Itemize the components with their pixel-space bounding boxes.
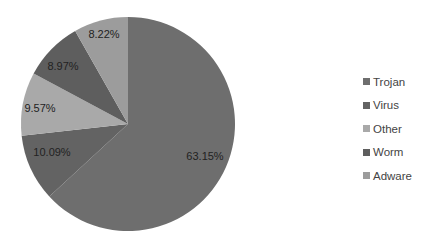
legend-swatch <box>363 149 370 156</box>
legend-item-adware: Adware <box>363 164 412 188</box>
data-label: 63.15% <box>186 150 224 162</box>
legend-swatch <box>363 172 370 179</box>
legend-swatch <box>363 78 370 85</box>
legend-item-virus: Virus <box>363 94 412 118</box>
legend: Trojan Virus Other Worm Adware <box>363 70 412 188</box>
data-label: 8.97% <box>47 60 78 72</box>
data-label: 9.57% <box>24 102 55 114</box>
legend-item-trojan: Trojan <box>363 70 412 94</box>
data-label: 8.22% <box>88 28 119 40</box>
legend-swatch <box>363 102 370 109</box>
legend-swatch <box>363 125 370 132</box>
data-label: 10.09% <box>33 146 71 158</box>
legend-item-other: Other <box>363 117 412 141</box>
legend-item-worm: Worm <box>363 141 412 165</box>
